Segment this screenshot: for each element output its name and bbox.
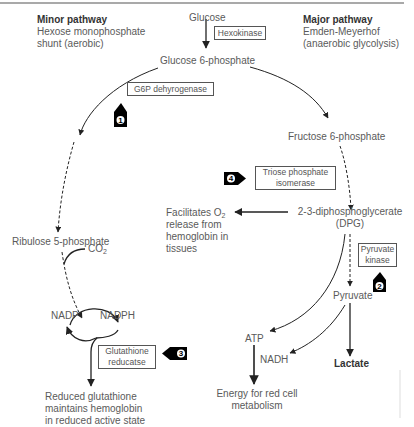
enzyme-glutathione-reductase: Glutathione reducatse	[98, 345, 156, 369]
enzyme-pyruvate-kinase: Pyruvate kinase	[358, 243, 397, 267]
svg-text:2: 2	[377, 282, 382, 291]
node-fructose-6-phosphate: Fructose 6-phosphate	[288, 131, 385, 143]
arrow-dpg-atp	[270, 234, 345, 331]
enzyme-triose-phosphate-isomerase: Triose phosphate isomerase	[255, 166, 336, 190]
arrow-fructose-dpg	[340, 146, 351, 210]
marker-3-icon: 3	[162, 347, 187, 360]
enzyme-pyruvate-kinase-line1: Pyruvate	[361, 244, 395, 255]
marker-1-icon: 1	[114, 103, 127, 127]
node-energy: Energy for red cell metabolism	[212, 388, 302, 412]
node-pyruvate: Pyruvate	[333, 290, 372, 302]
svg-text:1: 1	[118, 116, 123, 125]
enzyme-triose-line2: isomerase	[276, 178, 315, 189]
enzyme-triose-line1: Triose phosphate	[263, 167, 328, 178]
node-nadh: NADH	[260, 354, 288, 366]
marker-4-icon: 4	[224, 172, 246, 185]
node-dpg-line1: 2-3-diphosphoglycerate	[295, 206, 405, 218]
facilitates-line3: hemoglobin in	[166, 231, 228, 243]
node-glucose: Glucose	[189, 12, 226, 24]
node-facilitates-o2: Facilitates O2 release from hemoglobin i…	[166, 207, 228, 255]
svg-text:4: 4	[229, 174, 234, 183]
node-lactate: Lactate	[334, 358, 369, 370]
enzyme-g6p-dehydrogenase: G6P dehyrogenase	[127, 82, 214, 96]
node-dpg: 2-3-diphosphoglycerate (DPG)	[295, 206, 405, 230]
major-pathway-title: Major pathway	[303, 14, 372, 26]
arrow-cycle-glutathione	[91, 338, 97, 386]
arrow-pyruvate-nadh	[290, 305, 345, 353]
node-glucose-6-phosphate: Glucose 6-phosphate	[160, 55, 255, 67]
node-reduced-glutathione: Reduced glutathione maintains hemoglobin…	[45, 391, 145, 427]
node-atp: ATP	[245, 333, 264, 345]
node-co2: CO2	[88, 243, 107, 255]
enzyme-glutathione-line2: reducatse	[108, 357, 145, 368]
cycle-bottom-right-arc	[96, 330, 118, 338]
node-dpg-line2: (DPG)	[295, 218, 405, 230]
co2-release	[64, 249, 85, 264]
arrow-minor-ribulose	[58, 142, 74, 232]
svg-text:3: 3	[179, 349, 184, 358]
facilitates-line1: Facilitates O	[166, 207, 222, 218]
glutathione-line2: maintains hemoglobin	[45, 403, 145, 415]
enzyme-hexokinase: Hexokinase	[214, 26, 266, 40]
node-nadp: NADP	[51, 310, 79, 322]
arrow-g6p-fructose	[250, 67, 328, 118]
energy-line1: Energy for red cell	[212, 388, 302, 400]
energy-line2: metabolism	[212, 400, 302, 412]
facilitates-line2: release from	[166, 219, 228, 231]
major-pathway-line2: (anaerobic glycolysis)	[303, 38, 399, 50]
enzyme-glutathione-line1: Glutathione	[105, 346, 148, 357]
minor-pathway-title: Minor pathway	[37, 14, 107, 26]
major-pathway-line1: Emden-Meyerhof	[303, 26, 380, 38]
node-nadph: NADPH	[100, 310, 135, 322]
cycle-bottom-left-arc	[67, 327, 96, 341]
glutathione-line3: in reduced active state	[45, 415, 145, 427]
minor-pathway-line2: shunt (aerobic)	[37, 38, 104, 50]
facilitates-line4: tissues	[166, 243, 228, 255]
marker-2-icon: 2	[373, 272, 386, 292]
glutathione-line1: Reduced glutathione	[45, 391, 145, 403]
enzyme-pyruvate-kinase-line2: kinase	[365, 255, 390, 266]
minor-pathway-line1: Hexose monophosphate	[37, 26, 145, 38]
